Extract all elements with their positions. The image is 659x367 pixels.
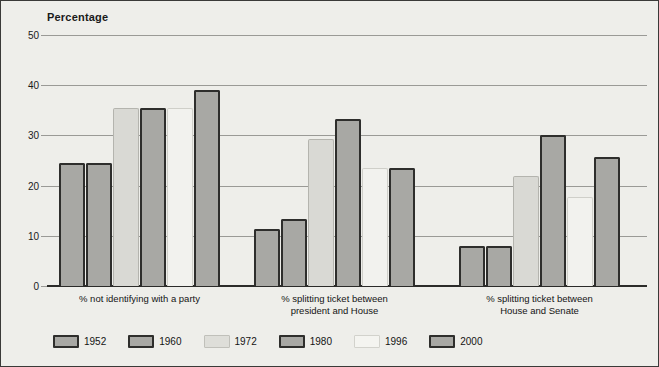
bar-1996-group1 [167,108,193,286]
bar-1960-group1 [86,163,112,286]
bar-1996-group2 [362,168,388,286]
legend-label: 1972 [235,336,257,347]
legend-label: 1960 [159,336,181,347]
legend-swatch-icon [354,335,380,348]
y-axis-tick-label: 40 [15,80,39,91]
bar-2000-group1 [194,90,220,286]
group-label-line: % splitting ticket between [224,293,445,305]
legend-item-1952[interactable]: 1952 [53,335,106,348]
y-axis-tick-mark [41,135,47,136]
y-axis-tick-mark [41,186,47,187]
y-axis-tick-label: 50 [15,30,39,41]
gridline [47,85,647,86]
legend-item-1960[interactable]: 1960 [128,335,181,348]
y-axis-tick-label: 30 [15,130,39,141]
bar-1980-group3 [540,135,566,286]
legend-swatch-icon [53,335,79,348]
y-axis-tick-mark [41,35,47,36]
group-label-line: % not identifying with a party [29,293,250,305]
y-axis-tick-label: 20 [15,180,39,191]
bar-1996-group3 [567,197,593,286]
legend-swatch-icon [204,335,230,348]
bar-1972-group2 [308,139,334,286]
legend-item-2000[interactable]: 2000 [429,335,482,348]
bar-2000-group3 [594,157,620,286]
gridline [47,35,647,36]
legend-swatch-icon [429,335,455,348]
chart-figure: Percentage 01020304050 % not identifying… [0,0,659,367]
bar-1980-group1 [140,108,166,286]
legend-item-1972[interactable]: 1972 [204,335,257,348]
bar-1952-group1 [59,163,85,286]
group-label-2: % splitting ticket betweenpresident and … [224,293,445,317]
chart-title: Percentage [47,11,108,23]
bar-2000-group2 [389,168,415,286]
bar-1980-group2 [335,119,361,286]
group-label-3: % splitting ticket betweenHouse and Sena… [429,293,650,317]
group-label-line: % splitting ticket between [429,293,650,305]
group-label-line: president and House [224,305,445,317]
bar-1952-group2 [254,229,280,286]
legend-label: 1980 [310,336,332,347]
legend-label: 1996 [385,336,407,347]
legend-item-1996[interactable]: 1996 [354,335,407,348]
bar-1972-group1 [113,108,139,286]
plot-area: 01020304050 [47,35,647,286]
group-label-1: % not identifying with a party [29,293,250,305]
y-axis-tick-label: 0 [15,281,39,292]
bar-1952-group3 [459,246,485,286]
chart-legend: 195219601972198019962000 [53,335,483,348]
y-axis-tick-mark [41,236,47,237]
legend-label: 2000 [460,336,482,347]
y-axis-tick-mark [41,85,47,86]
legend-swatch-icon [128,335,154,348]
legend-label: 1952 [84,336,106,347]
bar-1960-group3 [486,246,512,286]
bar-1960-group2 [281,219,307,286]
legend-item-1980[interactable]: 1980 [279,335,332,348]
y-axis-tick-label: 10 [15,230,39,241]
legend-swatch-icon [279,335,305,348]
bar-1972-group3 [513,176,539,286]
group-label-line: House and Senate [429,305,650,317]
